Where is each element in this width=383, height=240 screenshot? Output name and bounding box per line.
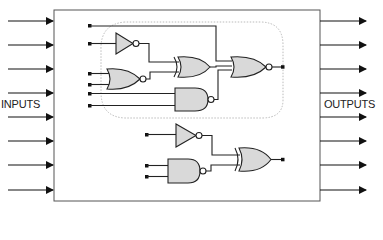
nand-gate-upper: [175, 88, 208, 111]
outputs-label: OUTPUTS: [324, 98, 375, 110]
nand-gate-lower: [168, 159, 200, 183]
upper-output-terminal: [281, 65, 285, 69]
lower-output-terminal: [281, 158, 285, 162]
inputs-label: INPUTS: [1, 98, 40, 110]
